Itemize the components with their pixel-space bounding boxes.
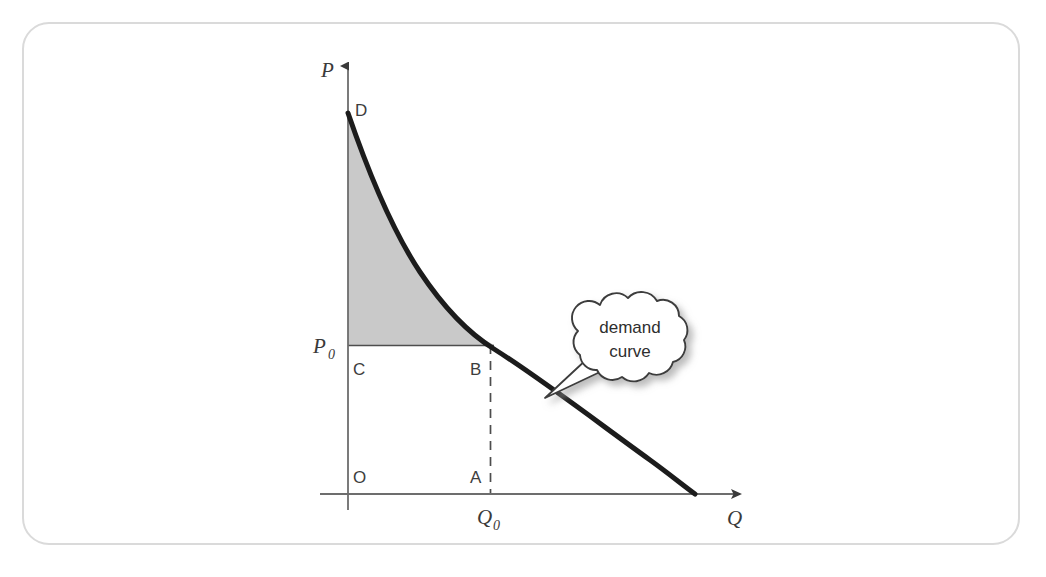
figure-root: P Q P 0 Q 0 D C B O A demand curve bbox=[0, 0, 1046, 577]
quantity-label-subscript: 0 bbox=[493, 518, 500, 533]
point-label-c: C bbox=[353, 360, 365, 379]
point-label-o: O bbox=[353, 468, 366, 487]
point-label-a: A bbox=[470, 468, 482, 487]
quantity-label-q-glyph: Q bbox=[477, 505, 492, 529]
point-label-d: D bbox=[355, 101, 367, 120]
callout-line-1: demand bbox=[599, 318, 660, 337]
price-label-p-glyph: P bbox=[312, 334, 326, 358]
point-label-b: B bbox=[470, 360, 481, 379]
callout-line-2: curve bbox=[609, 342, 651, 361]
axis-label-p: P bbox=[320, 58, 334, 82]
axis-label-q: Q bbox=[727, 506, 742, 530]
demand-curve-figure: P Q P 0 Q 0 D C B O A demand curve bbox=[0, 0, 1046, 577]
rounded-frame bbox=[23, 23, 1019, 544]
price-label-subscript: 0 bbox=[328, 347, 335, 362]
